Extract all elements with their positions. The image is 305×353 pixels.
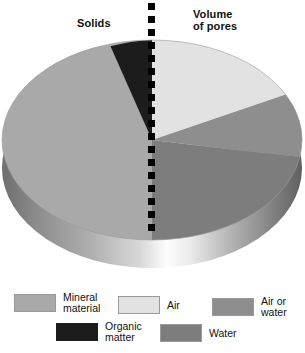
legend-swatch-air-or-water (212, 298, 254, 316)
legend-swatch-water (160, 324, 202, 342)
legend-item-organic-matter[interactable]: Organic matter (56, 321, 142, 343)
pie-chart-figure: Solids Volume of pores (0, 0, 305, 353)
chart-legend: Mineral material Air Air or water Organi… (0, 288, 305, 353)
legend-item-water[interactable]: Water (160, 324, 237, 342)
slice-water (152, 140, 300, 240)
legend-swatch-organic-matter (56, 323, 98, 341)
legend-item-air[interactable]: Air (118, 296, 180, 314)
dashed-divider (148, 3, 155, 237)
legend-label-mineral-material: Mineral material (63, 292, 100, 314)
legend-label-air-or-water: Air or water (261, 296, 305, 318)
legend-label-air: Air (167, 300, 180, 311)
legend-swatch-air (118, 296, 160, 314)
legend-label-organic-matter: Organic matter (105, 321, 142, 343)
legend-item-mineral-material[interactable]: Mineral material (14, 292, 100, 314)
pie-chart-canvas (0, 0, 305, 285)
legend-label-water: Water (209, 328, 237, 339)
legend-swatch-mineral-material (14, 294, 56, 312)
legend-item-air-or-water[interactable]: Air or water (212, 296, 305, 318)
